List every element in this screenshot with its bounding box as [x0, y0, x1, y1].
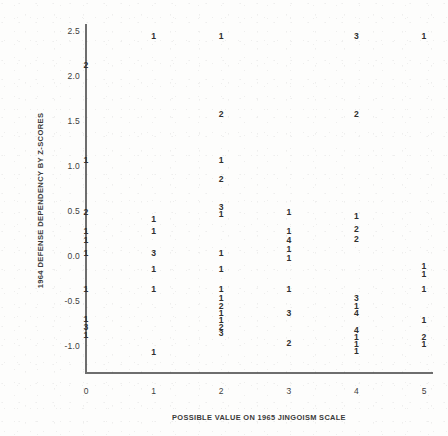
data-point-count-label: 1 [214, 248, 228, 258]
data-point-count-label: 1 [417, 31, 431, 41]
data-point-count-label: 1 [79, 235, 93, 245]
x-tick-label: 0 [76, 386, 96, 396]
data-point-count-label: 3 [282, 308, 296, 318]
data-point-count-label: 1 [214, 155, 228, 165]
data-point-count-label: 2 [79, 207, 93, 217]
data-point-count-label: 1 [79, 284, 93, 294]
x-tick-label: 1 [144, 386, 164, 396]
x-tick-label: 5 [414, 386, 434, 396]
y-tick-text: -0.5 [40, 297, 80, 306]
data-point-count-label: 3 [349, 31, 363, 41]
data-point-count-label: 2 [282, 338, 296, 348]
data-point-count-label: 1 [147, 264, 161, 274]
y-tick-text: 2.0 [40, 72, 80, 81]
data-point-count-label: 1 [214, 209, 228, 219]
data-point-count-label: 2 [349, 109, 363, 119]
y-tick-text: 1.5 [40, 117, 80, 126]
data-point-count-label: 3 [147, 248, 161, 258]
data-point-count-label: 1 [147, 226, 161, 236]
data-point-count-label: 2 [349, 224, 363, 234]
y-tick-label: 2.5 [38, 27, 80, 36]
y-tick-label: -1.0 [38, 342, 80, 351]
y-tick-text: 0.5 [40, 207, 80, 216]
data-point-count-label: 1 [147, 214, 161, 224]
data-point-count-label: 1 [214, 31, 228, 41]
data-point-count-label: 1 [147, 347, 161, 357]
data-point-count-label: 1 [79, 155, 93, 165]
data-point-count-label: 1 [282, 207, 296, 217]
data-point-count-label: 1 [349, 211, 363, 221]
data-point-count-label: 1 [214, 264, 228, 274]
y-tick-label: 2.0 [38, 72, 80, 81]
x-tick-label: 3 [279, 386, 299, 396]
data-point-count-label: 1 [79, 248, 93, 258]
data-point-count-label: 1 [282, 284, 296, 294]
data-point-count-label: 2 [214, 174, 228, 184]
data-point-count-label: 3 [214, 328, 228, 338]
data-point-count-label: 4 [349, 308, 363, 318]
data-point-count-label: 1 [349, 346, 363, 356]
data-point-count-label: 2 [214, 109, 228, 119]
y-tick-text: 0.0 [40, 252, 80, 261]
data-point-count-label: 1 [79, 330, 93, 340]
data-point-count-label: 1 [417, 284, 431, 294]
y-tick-text: 1.0 [40, 162, 80, 171]
data-point-count-label: 1 [417, 339, 431, 349]
y-tick-text: -1.0 [40, 342, 80, 351]
data-point-count-label: 1 [417, 269, 431, 279]
y-tick-text: 2.5 [40, 27, 80, 36]
x-tick-label: 4 [346, 386, 366, 396]
data-point-count-label: 1 [147, 284, 161, 294]
data-point-count-label: 2 [349, 234, 363, 244]
data-point-count-label: 1 [417, 315, 431, 325]
x-tick-label: 2 [211, 386, 231, 396]
y-axis-title: 1964 DEFENSE DEPENDENCY BY Z-SCORES [36, 81, 45, 321]
x-axis-title: POSSIBLE VALUE ON 1965 JINGOISM SCALE [85, 413, 433, 422]
data-point-count-label: 2 [79, 60, 93, 70]
data-point-count-label: 1 [147, 31, 161, 41]
data-point-count-label: 1 [282, 253, 296, 263]
scatter-plot-figure: 2.52.01.51.00.50.0-0.5-1.0 012345 1964 D… [0, 0, 448, 436]
x-axis-line [85, 372, 433, 374]
